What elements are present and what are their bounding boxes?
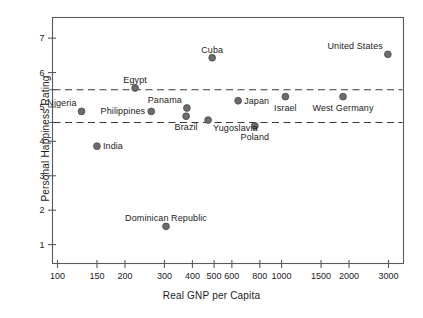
data-point-marker bbox=[184, 105, 191, 112]
x-tick-label: 150 bbox=[89, 271, 104, 281]
x-tick-label: 500 bbox=[207, 271, 222, 281]
point-label: Nigeria bbox=[47, 98, 76, 108]
data-point-marker bbox=[132, 85, 139, 92]
point-label: Brazil bbox=[175, 122, 198, 132]
x-axis-title: Real GNP per Capita bbox=[0, 290, 423, 301]
point-label: Poland bbox=[241, 132, 270, 142]
x-tick-label: 200 bbox=[117, 271, 132, 281]
data-point-marker bbox=[183, 113, 190, 120]
data-point-marker bbox=[209, 54, 216, 61]
point-label: West Germany bbox=[312, 103, 373, 113]
x-tick-label: 800 bbox=[252, 271, 267, 281]
x-tick-label: 300 bbox=[157, 271, 172, 281]
data-point-marker bbox=[78, 108, 85, 115]
x-tick-label: 600 bbox=[224, 271, 239, 281]
point-label: India bbox=[103, 141, 123, 151]
scatter-plot-figure: 1001502003004005006008001000150020003000… bbox=[0, 0, 423, 318]
data-point-marker bbox=[340, 93, 347, 100]
point-label: Panama bbox=[148, 95, 182, 105]
data-point-marker bbox=[163, 223, 170, 230]
data-point-marker bbox=[282, 93, 289, 100]
x-tick-label: 1000 bbox=[272, 271, 292, 281]
data-point-marker bbox=[148, 108, 155, 115]
x-tick-label: 3000 bbox=[378, 271, 398, 281]
point-label: Japan bbox=[244, 96, 269, 106]
point-label: United States bbox=[328, 41, 383, 51]
point-label: Dominican Republic bbox=[125, 213, 207, 223]
point-label: Egypt bbox=[123, 75, 147, 85]
x-tick-label: 100 bbox=[50, 271, 65, 281]
x-tick-label: 400 bbox=[185, 271, 200, 281]
data-point-marker bbox=[235, 97, 242, 104]
x-tick-label: 2000 bbox=[339, 271, 359, 281]
tick-marks bbox=[48, 38, 388, 268]
point-label: Philippines bbox=[101, 106, 146, 116]
data-point-marker bbox=[384, 51, 391, 58]
data-point-marker bbox=[205, 117, 212, 124]
point-label: Cuba bbox=[201, 45, 223, 55]
x-tick-label: 1500 bbox=[311, 271, 331, 281]
y-axis-title: Personal Happiness Rating bbox=[40, 14, 51, 264]
point-label: Israel bbox=[274, 103, 297, 113]
data-point-marker bbox=[94, 143, 101, 150]
